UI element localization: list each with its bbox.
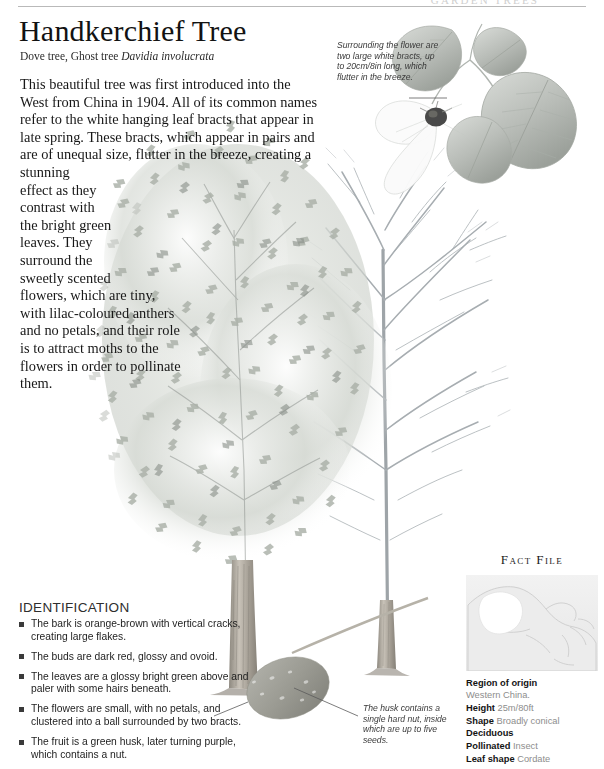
fact-file-panel: Fact File: [466, 552, 598, 765]
subtitle: Dove tree, Ghost tree Davidia involucrat…: [20, 50, 214, 62]
fact-value: Broadly conical: [497, 716, 560, 726]
leaf-shape: [474, 28, 527, 76]
header-rule: [18, 6, 586, 7]
fact-label: Leaf shape: [466, 754, 515, 764]
fact-row: Leaf shape Cordate: [466, 753, 598, 765]
encyclopedia-page: GARDEN TREES: [0, 0, 604, 769]
list-item: The bark is orange-brown with vertical c…: [19, 618, 254, 643]
list-item: The leaves are a glossy bright green abo…: [19, 671, 254, 696]
flower-head: [420, 101, 452, 127]
intro-paragraph: This beautiful tree was first introduced…: [20, 76, 320, 463]
common-names: Dove tree, Ghost tree: [20, 50, 121, 62]
bract-callout-caption: Surrounding the flower are two large whi…: [337, 40, 441, 82]
fact-label: Deciduous: [466, 728, 514, 738]
distribution-map: [466, 575, 598, 671]
fact-row: Deciduous: [466, 727, 598, 739]
fact-file-rows: Region of origin Western China. Height 2…: [466, 677, 598, 765]
fact-row: Shape Broadly conical: [466, 715, 598, 727]
leaf-shape: [481, 72, 576, 168]
leader-line-husk: [294, 688, 358, 716]
husk-callout-caption: The husk contains a single hard nut, ins…: [363, 703, 463, 745]
fact-value: Cordate: [517, 754, 550, 764]
fact-file-heading: Fact File: [466, 552, 598, 568]
list-item-text: The bark is orange-brown with vertical c…: [31, 618, 240, 642]
fact-value: Insect: [513, 741, 538, 751]
square-bullet-icon: [19, 707, 24, 712]
identification-list: The bark is orange-brown with vertical c…: [19, 618, 254, 769]
list-item-text: The flowers are small, with no petals, a…: [31, 703, 241, 727]
square-bullet-icon: [19, 622, 24, 627]
square-bullet-icon: [19, 654, 24, 659]
running-head: GARDEN TREES: [380, 0, 590, 5]
list-item: The buds are dark red, glossy and ovoid.: [19, 651, 254, 664]
fact-label: Region of origin: [466, 678, 537, 688]
fact-value: 25m/80ft: [498, 703, 534, 713]
list-item-text: The buds are dark red, glossy and ovoid.: [31, 651, 218, 662]
region-highlight: [479, 592, 523, 634]
fact-row: Region of origin Western China.: [466, 677, 598, 701]
square-bullet-icon: [19, 740, 24, 745]
list-item-text: The leaves are a glossy bright green abo…: [31, 671, 249, 695]
trunk-bare-tree: [364, 600, 410, 676]
square-bullet-icon: [19, 674, 24, 679]
scientific-name: Davidia involucrata: [121, 50, 214, 62]
list-item-text: The fruit is a green husk, later turning…: [31, 736, 236, 760]
fact-label: Height: [466, 703, 495, 713]
fact-label: Pollinated: [466, 741, 510, 751]
fact-value: Western China.: [466, 689, 598, 701]
identification-heading: IDENTIFICATION: [19, 600, 129, 615]
fact-row: Height 25m/80ft: [466, 702, 598, 714]
bract-shape: [375, 101, 436, 194]
list-item: The flowers are small, with no petals, a…: [19, 703, 254, 728]
list-item: The fruit is a green husk, later turning…: [19, 736, 254, 761]
page-title: Handkerchief Tree: [19, 14, 247, 48]
fact-label: Shape: [466, 716, 494, 726]
leaf-shape: [447, 116, 512, 183]
fact-row: Pollinated Insect: [466, 740, 598, 752]
